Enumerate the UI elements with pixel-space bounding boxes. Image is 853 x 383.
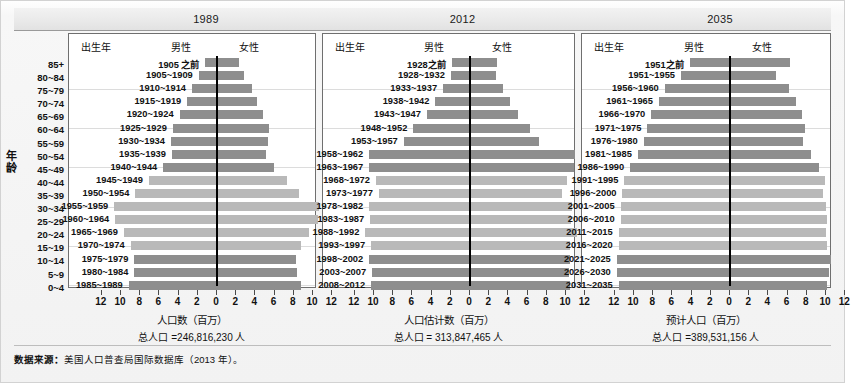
- age-group-label: 40~44: [20, 176, 68, 189]
- cohort-birth-year-label: 1905~1909: [146, 70, 193, 80]
- female-bar: [217, 176, 287, 185]
- pyramid-row: 1966~1970: [582, 108, 830, 121]
- pyramid-row: 1991~1995: [582, 174, 830, 187]
- axis-tick: [546, 290, 547, 295]
- header-female: 女性: [239, 39, 259, 54]
- cohort-birth-year-label: 1983~1987: [317, 214, 364, 224]
- cohort-birth-year-label: 1971~1975: [595, 123, 642, 133]
- female-bar: [730, 110, 802, 119]
- cohort-birth-year-label: 1996~2000: [570, 188, 617, 198]
- age-group-label: 55~59: [20, 137, 68, 150]
- pyramid-row: 2006~2010: [582, 213, 830, 226]
- axis-tick-label: 12: [835, 296, 853, 307]
- cohort-birth-year-label: 1963~1967: [316, 162, 363, 172]
- female-bar: [470, 228, 577, 237]
- male-bar: [638, 150, 730, 159]
- age-group-label: 65~69: [20, 110, 68, 123]
- male-bar: [665, 84, 730, 93]
- female-bar: [730, 255, 831, 264]
- pyramid-row: 1978~1982: [323, 200, 574, 213]
- male-bar: [180, 110, 217, 119]
- pyramid-row: 1953~1957: [323, 135, 574, 148]
- pyramid-row: 1993~1997: [323, 239, 574, 252]
- cohort-birth-year-label: 1986~1990: [577, 162, 624, 172]
- total-population-label: 总人口 =246,816,230 人: [62, 329, 322, 344]
- male-bar: [171, 137, 217, 146]
- pyramid-row: 2026~2030: [582, 266, 830, 279]
- axis-tick: [354, 290, 355, 295]
- axis-tick: [373, 290, 374, 295]
- male-bar: [376, 176, 470, 185]
- female-bar: [217, 268, 297, 277]
- cohort-birth-year-label: 1943~1947: [374, 109, 421, 119]
- axis-tick-label: 10: [303, 296, 321, 307]
- panel-year-title: 1989: [146, 13, 266, 25]
- male-bar: [173, 124, 217, 133]
- panel-column-headers: 出生年男性女性: [69, 34, 315, 56]
- axis-tick-label: 6: [662, 296, 680, 307]
- axis-tick: [507, 290, 508, 295]
- male-bar: [617, 268, 730, 277]
- female-bar: [730, 215, 827, 224]
- pyramid-row: 1951~1955: [582, 69, 830, 82]
- pyramid-row: 1928~1932: [323, 69, 574, 82]
- female-bar: [730, 281, 827, 290]
- male-bar: [369, 163, 470, 172]
- male-bar: [619, 228, 730, 237]
- male-bar: [134, 255, 217, 264]
- female-bar: [217, 137, 268, 146]
- male-bar: [630, 163, 730, 172]
- cohort-birth-year-label: 2008~2012: [318, 280, 365, 290]
- cohort-birth-year-label: 2001~2005: [568, 201, 615, 211]
- axis-tick: [844, 290, 845, 295]
- male-bar: [624, 176, 730, 185]
- age-group-label: 35~39: [20, 189, 68, 202]
- pyramid-row: 1961~1965: [582, 95, 830, 108]
- female-bar: [217, 84, 252, 93]
- axis-tick-label: 6: [149, 296, 167, 307]
- age-group-label: 50~54: [20, 150, 68, 163]
- female-bar: [217, 124, 269, 133]
- male-bar: [187, 97, 217, 106]
- axis-tick-label: 4: [682, 296, 700, 307]
- female-bar: [217, 228, 309, 237]
- pyramid-row: 1958~1962: [323, 148, 574, 161]
- axis-tick-label: 10: [624, 296, 642, 307]
- male-bar: [619, 281, 730, 290]
- male-bar: [134, 268, 217, 277]
- axis-tick-label: 0: [207, 296, 225, 307]
- female-bar: [470, 97, 510, 106]
- x-axis-caption: 预计人口（百万）: [576, 312, 836, 327]
- axis-tick-label: 0: [720, 296, 738, 307]
- male-bar: [451, 71, 470, 80]
- female-bar: [217, 202, 319, 211]
- cohort-birth-year-label: 1953~1957: [351, 136, 398, 146]
- axis-tick-label: 4: [758, 296, 776, 307]
- pyramid-row: 1905~1909: [69, 69, 315, 82]
- cohort-birth-year-label: 2003~2007: [319, 267, 366, 277]
- pyramid-row: 1938~1942: [323, 95, 574, 108]
- axis-tick: [671, 290, 672, 295]
- cohort-birth-year-label: 1998~2002: [316, 254, 363, 264]
- axis-tick-label: 10: [816, 296, 834, 307]
- pyramid-row: 1925~1929: [69, 122, 315, 135]
- header-female: 女性: [752, 39, 772, 54]
- header-male: 男性: [684, 39, 704, 54]
- axis-tick: [469, 290, 470, 295]
- female-bar: [730, 268, 829, 277]
- female-bar: [470, 84, 503, 93]
- pyramid-row: 1976~1980: [582, 135, 830, 148]
- female-bar: [470, 241, 570, 250]
- axis-tick-label: 2: [226, 296, 244, 307]
- axis-tick-label: 10: [111, 296, 129, 307]
- female-bar: [217, 97, 257, 106]
- male-bar: [379, 189, 470, 198]
- male-bar: [149, 176, 217, 185]
- total-population-label: 总人口 =389,531,156 人: [576, 329, 836, 344]
- female-bar: [217, 150, 266, 159]
- male-bar: [370, 215, 470, 224]
- female-bar: [470, 124, 530, 133]
- source-label: 数据来源：: [14, 354, 64, 365]
- axis-tick-label: 10: [556, 296, 574, 307]
- header-male: 男性: [171, 39, 191, 54]
